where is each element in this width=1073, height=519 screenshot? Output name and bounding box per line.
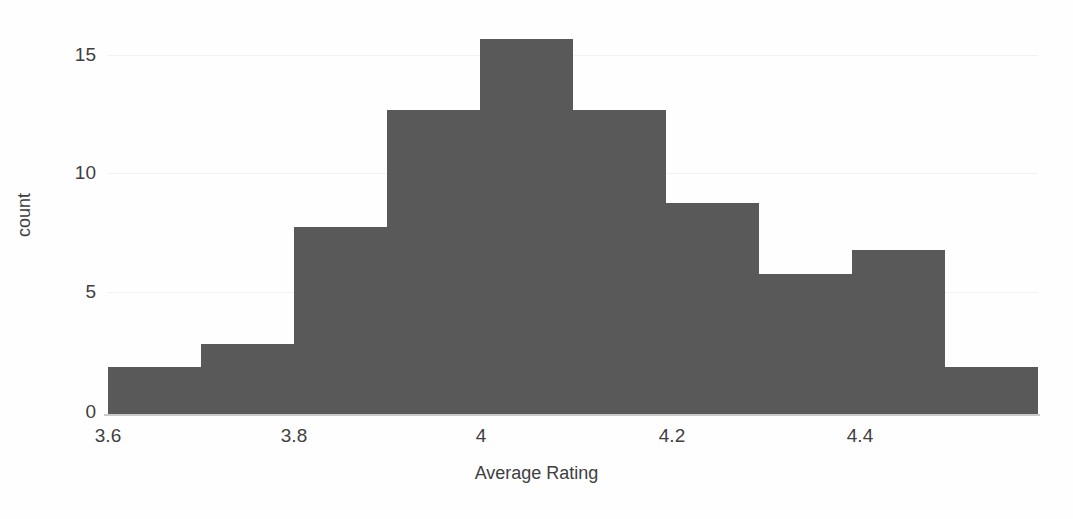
- y-tick-5: 5: [36, 281, 96, 303]
- y-tick-0: 0: [36, 401, 96, 423]
- histogram-bar: [573, 110, 666, 414]
- histogram-bar: [480, 39, 573, 414]
- histogram-bar: [759, 274, 852, 414]
- histogram-bars: [108, 16, 1038, 414]
- x-tick-3-8: 3.8: [281, 425, 307, 447]
- histogram-bar: [387, 110, 480, 414]
- histogram-bar: [852, 250, 945, 414]
- histogram-bar: [945, 367, 1038, 414]
- x-axis-title: Average Rating: [0, 463, 1073, 484]
- histogram-screenshot: 15 10 5 0 count 3.6 3.8 4 4.2 4.4 Averag…: [0, 0, 1073, 519]
- y-tick-10: 10: [36, 162, 96, 184]
- plot-area: [108, 16, 1038, 414]
- histogram-bar: [666, 203, 759, 414]
- y-axis-title: count: [14, 160, 35, 270]
- histogram-bar: [294, 227, 387, 414]
- x-tick-4-4: 4.4: [847, 425, 873, 447]
- histogram-bar: [201, 344, 294, 414]
- histogram-bar: [108, 367, 201, 414]
- y-tick-15: 15: [36, 44, 96, 66]
- x-tick-3-6: 3.6: [95, 425, 121, 447]
- x-tick-4-2: 4.2: [659, 425, 685, 447]
- x-axis-line: [104, 414, 1040, 416]
- x-tick-4: 4: [476, 425, 487, 447]
